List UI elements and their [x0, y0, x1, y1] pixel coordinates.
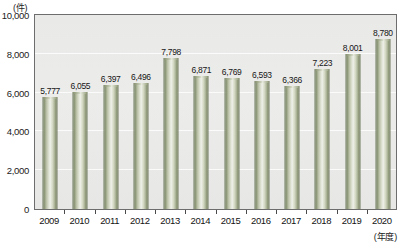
x-axis-tick-label: 2011: [100, 215, 119, 226]
bar-top-cap: [74, 92, 87, 94]
bar: [375, 39, 390, 209]
bar: [285, 86, 300, 210]
y-axis-tick-label: 2,000: [0, 165, 29, 176]
bar: [73, 92, 88, 209]
bar: [224, 78, 239, 209]
x-axis-tick-label: 2016: [251, 215, 271, 226]
x-axis-tick-mark: [337, 210, 338, 214]
x-axis-tick-label: 2020: [372, 215, 392, 226]
bar: [194, 76, 209, 209]
bar-top-cap: [255, 81, 268, 83]
bar: [164, 58, 179, 209]
bar-top-cap: [195, 76, 208, 78]
bar-top-cap: [286, 86, 299, 88]
bar-slot: 6,871: [186, 15, 216, 209]
bar-top-cap: [376, 39, 389, 41]
x-axis-tick-mark: [367, 210, 368, 214]
bar-value-label: 8,001: [343, 43, 363, 53]
bar-slot: 5,777: [35, 15, 65, 209]
x-axis-tick-label: 2017: [281, 215, 301, 226]
x-axis-tick-mark: [185, 210, 186, 214]
bar-value-label: 7,798: [161, 47, 181, 57]
bars-group: 5,7776,0556,3976,4967,7986,8716,7696,593…: [35, 15, 396, 209]
x-axis-tick-mark: [155, 210, 156, 214]
x-axis-tick-label: 2009: [39, 215, 59, 226]
y-axis-tick-label: 0: [0, 204, 29, 215]
bar-slot: 8,001: [338, 15, 368, 209]
bar-value-label: 6,593: [252, 70, 272, 80]
bar-top-cap: [44, 97, 57, 99]
x-axis-tick-mark: [276, 210, 277, 214]
bar: [345, 54, 360, 209]
bar-slot: 8,780: [368, 15, 398, 209]
bar-value-label: 6,397: [101, 74, 121, 84]
bar-slot: 6,769: [217, 15, 247, 209]
x-axis-tick-label: 2012: [130, 215, 150, 226]
x-axis-tick-label: 2010: [70, 215, 90, 226]
bar-slot: 6,366: [277, 15, 307, 209]
bar-value-label: 8,780: [373, 28, 393, 38]
bar: [133, 83, 148, 209]
bar-chart: (件) 5,7776,0556,3976,4967,7986,8716,7696…: [0, 0, 401, 247]
x-axis-tick-mark: [125, 210, 126, 214]
x-axis-tick-label: 2013: [160, 215, 180, 226]
bar-value-label: 6,769: [222, 67, 242, 77]
y-axis-tick-label: 6,000: [0, 87, 29, 98]
bar-top-cap: [165, 58, 178, 60]
y-axis-tick-label: 4,000: [0, 126, 29, 137]
x-axis-tick-label: 2015: [221, 215, 241, 226]
bar-value-label: 5,777: [40, 86, 60, 96]
bar: [103, 85, 118, 209]
x-axis-tick-mark: [64, 210, 65, 214]
bar-slot: 7,223: [307, 15, 337, 209]
x-axis-tick-mark: [95, 210, 96, 214]
plot-area: 5,7776,0556,3976,4967,7986,8716,7696,593…: [34, 14, 397, 210]
x-axis-tick-label: 2014: [191, 215, 211, 226]
bar-value-label: 6,366: [282, 75, 302, 85]
bar-top-cap: [134, 83, 147, 85]
bar-value-label: 7,223: [313, 58, 333, 68]
bar-top-cap: [316, 69, 329, 71]
x-axis-unit-label: (年度): [374, 230, 397, 243]
bar-slot: 6,397: [96, 15, 126, 209]
bar: [43, 97, 58, 209]
bar: [315, 69, 330, 209]
bar-slot: 6,055: [65, 15, 95, 209]
bar-value-label: 6,055: [71, 81, 91, 91]
bar: [254, 81, 269, 209]
bar-slot: 6,496: [126, 15, 156, 209]
x-axis-tick-mark: [246, 210, 247, 214]
x-axis-tick-mark: [306, 210, 307, 214]
bar-value-label: 6,871: [192, 65, 212, 75]
x-axis-tick-label: 2019: [342, 215, 362, 226]
bar-top-cap: [346, 54, 359, 56]
x-axis-labels-group: 2009201020112012201320142015201620172018…: [34, 215, 397, 229]
bar-top-cap: [225, 78, 238, 80]
x-axis-tick-mark: [216, 210, 217, 214]
x-axis-tick-label: 2018: [312, 215, 332, 226]
bar-slot: 7,798: [156, 15, 186, 209]
bar-top-cap: [104, 85, 117, 87]
y-axis-tick-label: 8,000: [0, 48, 29, 59]
y-axis-tick-label: 10,000: [0, 10, 29, 21]
bar-slot: 6,593: [247, 15, 277, 209]
bar-value-label: 6,496: [131, 72, 151, 82]
